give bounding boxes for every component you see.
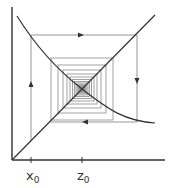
diagonal-line — [12, 15, 155, 160]
up-arrow-icon — [29, 81, 34, 87]
direction-arrows — [29, 33, 140, 125]
right-arrow-icon — [78, 33, 84, 38]
tick-labels: x0 z0 — [26, 168, 90, 185]
x0-label: x0 — [26, 168, 40, 185]
cobweb-diagram: x0 z0 — [0, 0, 174, 188]
map-curve — [17, 16, 155, 123]
down-arrow-icon — [135, 78, 140, 84]
z0-label: z0 — [77, 168, 90, 185]
